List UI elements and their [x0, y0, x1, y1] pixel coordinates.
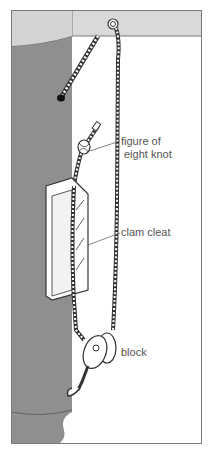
label-figure-of-eight-line1: figure of — [121, 136, 161, 147]
cleat-face — [52, 190, 72, 296]
label-clam-cleat: clam cleat — [121, 227, 171, 238]
mast-hole — [57, 95, 65, 102]
rigging-diagram — [0, 0, 213, 450]
label-block: block — [121, 347, 147, 358]
block-pin — [93, 345, 99, 351]
label-figure-of-eight-line2: eight knot — [124, 149, 172, 160]
eye-fitting-icon — [108, 19, 118, 29]
